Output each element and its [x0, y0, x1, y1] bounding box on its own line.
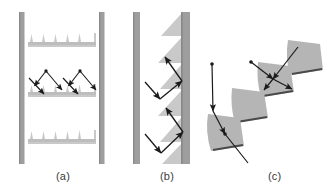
- panel-b-right-wall-edge: [181, 12, 183, 164]
- panel-a-left-wall-edge: [19, 12, 20, 164]
- figure-canvas: [0, 0, 335, 196]
- panel-c-blade-3: [257, 62, 294, 97]
- panel-c-blade-4: [287, 40, 323, 75]
- panel-a-right-wall-edge: [99, 12, 100, 164]
- panel-a-caption: (a): [56, 170, 70, 182]
- panel-c-blade-1: [207, 114, 244, 151]
- panel-c-caption: (c): [268, 170, 281, 182]
- panel-b-caption: (b): [160, 170, 174, 182]
- panel-b-left-wall-edge: [133, 12, 135, 164]
